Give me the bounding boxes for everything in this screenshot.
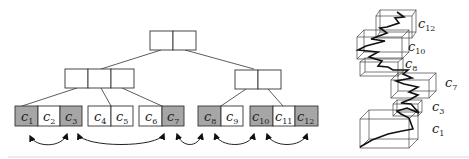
arrow-c10-c12 (267, 134, 307, 145)
box-labels: c12 c10 c8 c7 c3 c1 (405, 16, 457, 138)
box-label-c12: c12 (418, 16, 435, 33)
arrow-c3-c7 (78, 134, 164, 145)
arrow-c1-c3 (30, 134, 67, 145)
box-label-c8: c8 (405, 56, 417, 73)
internal-node-right (235, 70, 281, 89)
diagram-canvas: c1 c2 c3 c4 c5 c6 c7 c8 c9 c10 c11 c12 (0, 0, 469, 159)
box-label-c1: c1 (432, 121, 444, 138)
leaf-link-arrows (30, 134, 307, 145)
box-label-c3: c3 (432, 99, 444, 116)
arrow-c7-c8 (177, 134, 202, 145)
root-node (150, 31, 196, 50)
box-label-c7: c7 (445, 75, 457, 92)
arrow-c8-c10 (215, 134, 254, 145)
internal-node-left (65, 69, 134, 88)
box-label-c10: c10 (408, 39, 425, 56)
